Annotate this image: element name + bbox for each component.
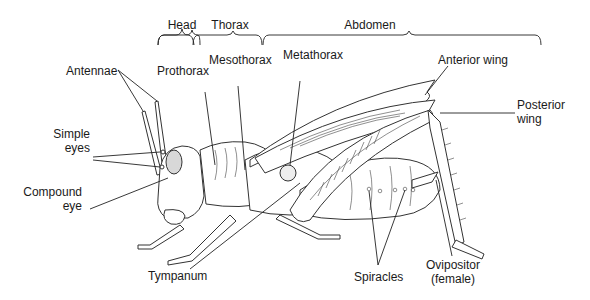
label-compound-eye-line2: eye bbox=[20, 199, 82, 213]
label-tympanum: Tympanum bbox=[148, 269, 207, 283]
label-metathorax: Metathorax bbox=[283, 48, 343, 62]
label-ovipositor-line1: Ovipositor bbox=[420, 258, 486, 272]
label-spiracles: Spiracles bbox=[354, 270, 403, 284]
region-label-head: Head bbox=[162, 18, 202, 32]
label-ovipositor-line2: (female) bbox=[420, 272, 486, 286]
tympanum-shape bbox=[280, 165, 296, 181]
grasshopper-anatomy-diagram: Head Thorax Abdomen Antennae Simple eyes… bbox=[0, 0, 590, 300]
label-posterior-wing-line1: Posterior bbox=[517, 98, 565, 112]
region-label-thorax: Thorax bbox=[205, 18, 255, 32]
label-posterior-wing-line2: wing bbox=[517, 112, 542, 126]
compound-eye-shape bbox=[166, 150, 182, 174]
label-simple-eyes-line2: eyes bbox=[40, 141, 90, 155]
label-prothorax: Prothorax bbox=[157, 64, 209, 78]
label-mesothorax: Mesothorax bbox=[209, 53, 272, 67]
label-compound-eye-line1: Compound bbox=[20, 185, 82, 199]
front-leg bbox=[138, 225, 184, 249]
region-label-abdomen: Abdomen bbox=[325, 18, 415, 32]
label-antennae: Antennae bbox=[66, 64, 117, 78]
label-simple-eyes-line1: Simple bbox=[40, 127, 90, 141]
label-anterior-wing: Anterior wing bbox=[438, 53, 508, 67]
